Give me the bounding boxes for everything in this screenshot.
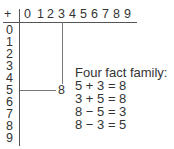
row-divider [19, 9, 20, 146]
col-header-1: 1 [37, 8, 44, 20]
col-header-0: 0 [24, 8, 31, 20]
column-3-guide-line [62, 22, 63, 84]
col-header-7: 7 [102, 8, 109, 20]
col-header-6: 6 [91, 8, 98, 20]
row-5-guide-line [20, 90, 56, 91]
col-header-4: 4 [69, 8, 76, 20]
fact-4: 8 − 3 = 5 [75, 118, 126, 131]
col-header-2: 2 [47, 8, 54, 20]
col-header-8: 8 [113, 8, 120, 20]
sum-result: 8 [58, 84, 65, 96]
col-header-9: 9 [124, 8, 131, 20]
col-header-5: 5 [80, 8, 87, 20]
col-header-3: 3 [58, 8, 65, 20]
row-header-9: 9 [6, 132, 13, 144]
corner-plus: + [4, 8, 11, 20]
header-divider [3, 22, 137, 23]
